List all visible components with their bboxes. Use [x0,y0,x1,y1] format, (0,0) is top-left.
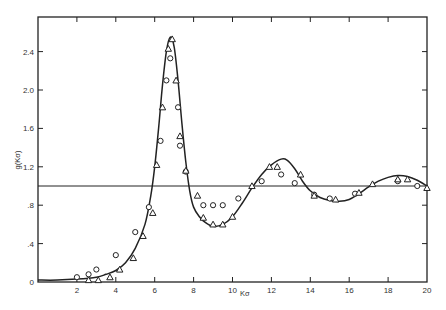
triangle-marker [220,221,226,227]
circle-marker [259,179,264,184]
y-tick-label: 2.0 [23,86,35,95]
circle-marker [158,138,163,143]
circle-marker [146,205,151,210]
y-tick-label: 1.6 [23,124,35,133]
circle-marker [164,78,169,83]
triangle-marker [274,164,280,170]
x-tick-label: 18 [384,286,393,295]
triangle-marker [395,176,401,182]
y-tick-label: .4 [27,240,34,249]
x-tick-label: 8 [191,286,196,295]
circle-marker [327,196,332,201]
circle-marker [292,181,297,186]
y-tick-label: 0 [30,278,35,287]
x-tick-label: 2 [75,286,80,295]
plot-frame [38,17,427,282]
y-tick-label: 1.2 [23,163,35,172]
circle-marker [113,253,118,258]
chart: 2468101214161820 0.4.81.21.62.02.4 Kσ g(… [0,0,446,310]
triangle-marker [107,274,113,280]
circle-marker [177,143,182,148]
triangle-marker [194,192,200,198]
x-tick-label: 16 [345,286,354,295]
circle-marker [133,229,138,234]
data-markers [74,36,430,283]
theory-curve [38,37,427,280]
y-tick-label: .8 [27,201,34,210]
x-axis-ticks: 2468101214161820 [75,17,432,295]
circle-marker [210,203,215,208]
triangle-marker [332,196,338,202]
triangle-marker [200,214,206,220]
triangle-marker [210,221,216,227]
triangle-marker [165,46,171,52]
circle-marker [168,56,173,61]
circle-marker [415,183,420,188]
circle-marker [74,275,79,280]
y-axis-ticks: 0.4.81.21.62.02.4 [23,48,427,287]
circle-marker [94,267,99,272]
x-tick-label: 10 [228,286,237,295]
circle-marker [175,105,180,110]
x-tick-label: 20 [423,286,432,295]
x-axis-label: Kσ [240,289,250,298]
circle-marker [279,172,284,177]
triangle-marker [150,210,156,216]
x-tick-label: 4 [114,286,119,295]
y-tick-label: 2.4 [23,48,35,57]
circle-marker [236,196,241,201]
x-tick-label: 14 [306,286,315,295]
circle-marker [220,203,225,208]
y-axis-label: g(Kσ) [13,150,22,169]
x-tick-label: 12 [267,286,276,295]
x-tick-label: 6 [152,286,157,295]
circle-marker [201,203,206,208]
